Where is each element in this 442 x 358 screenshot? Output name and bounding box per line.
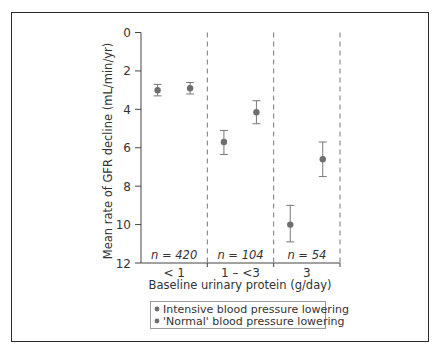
data-marker [253,109,259,115]
y-axis: 024681012 [116,26,141,271]
point-intensive [154,84,162,96]
point-intensive [220,130,228,154]
legend-label-normal: 'Normal' blood pressure lowering [163,315,344,328]
legend-marker-intensive [155,307,160,312]
data-marker [287,221,293,227]
y-tick-label: 12 [116,257,131,271]
x-axis-title: Baseline urinary protein (g/day) [149,278,332,292]
point-normal [319,142,327,177]
group-n-labels: n = 420n = 104n = 54 [151,248,326,262]
legend: Intensive blood pressure lowering 'Norma… [151,302,349,329]
point-normal [186,82,194,94]
group-separators [207,33,340,264]
group-n-label: n = 54 [287,248,326,262]
group-n-label: n = 104 [217,248,263,262]
data-marker [221,139,227,145]
y-tick-label: 0 [123,26,131,40]
gfr-decline-chart: 024681012 < 11 – <33 n = 420n = 104n = 5… [0,0,442,358]
data-marker [187,85,193,91]
y-axis-title: Mean rate of GFR decline (mL/min/yr) [101,43,115,260]
y-tick-label: 6 [123,141,131,155]
point-intensive [286,205,294,241]
y-tick-label: 10 [116,218,131,232]
data-marker [320,156,326,162]
y-tick-label: 8 [123,180,131,194]
data-marker [154,87,160,93]
group-n-label: n = 420 [151,248,197,262]
point-normal [252,101,260,124]
data-points [154,82,327,241]
legend-marker-normal [155,319,160,324]
y-tick-label: 2 [123,64,131,78]
y-tick-label: 4 [123,103,131,117]
